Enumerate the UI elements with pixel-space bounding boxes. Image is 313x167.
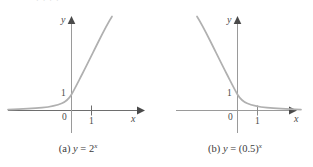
y-tick-label-1-a: 1 [61, 88, 66, 98]
plot-area-b: y x 1 0 1 [157, 0, 313, 140]
caption-b-eq: = [230, 143, 236, 154]
plot-area-a: y x 1 0 1 [0, 0, 156, 140]
caption-a-eq: = [80, 143, 86, 154]
x-axis-label-a: x [131, 113, 135, 124]
origin-label-a: 0 [62, 112, 67, 122]
curve-exponential-growth [8, 17, 112, 110]
caption-b: (b) y = (0.5)x [157, 143, 313, 154]
caption-a-y: y [73, 143, 78, 154]
x-axis-arrowhead-a [137, 107, 145, 115]
curve-exponential-decay [197, 17, 301, 110]
y-axis-arrowhead-a [68, 16, 76, 24]
caption-a-prefix: (a) [59, 143, 71, 154]
x-tick-label-1-a: 1 [89, 116, 94, 126]
exponential-functions-figure: · · · · y x 1 0 1 [0, 0, 313, 167]
caption-b-y: y [223, 143, 228, 154]
caption-a-exponent: x [94, 142, 97, 150]
graph-svg-b [157, 0, 313, 140]
y-axis-label-b: y [227, 14, 231, 25]
y-axis-label-a: y [61, 14, 65, 25]
caption-b-base: (0.5) [239, 143, 259, 154]
caption-b-exponent: x [259, 142, 262, 150]
x-axis-label-b: x [294, 113, 298, 124]
panel-a: y x 1 0 1 (a) y = 2x [0, 0, 156, 167]
y-tick-label-1-b: 1 [227, 88, 232, 98]
panel-b: y x 1 0 1 (b) y = (0.5)x [157, 0, 313, 167]
x-tick-label-1-b: 1 [255, 116, 260, 126]
caption-b-prefix: (b) [208, 143, 220, 154]
y-axis-arrowhead-b [234, 16, 242, 24]
origin-label-b: 0 [228, 112, 233, 122]
caption-a: (a) y = 2x [0, 143, 156, 154]
